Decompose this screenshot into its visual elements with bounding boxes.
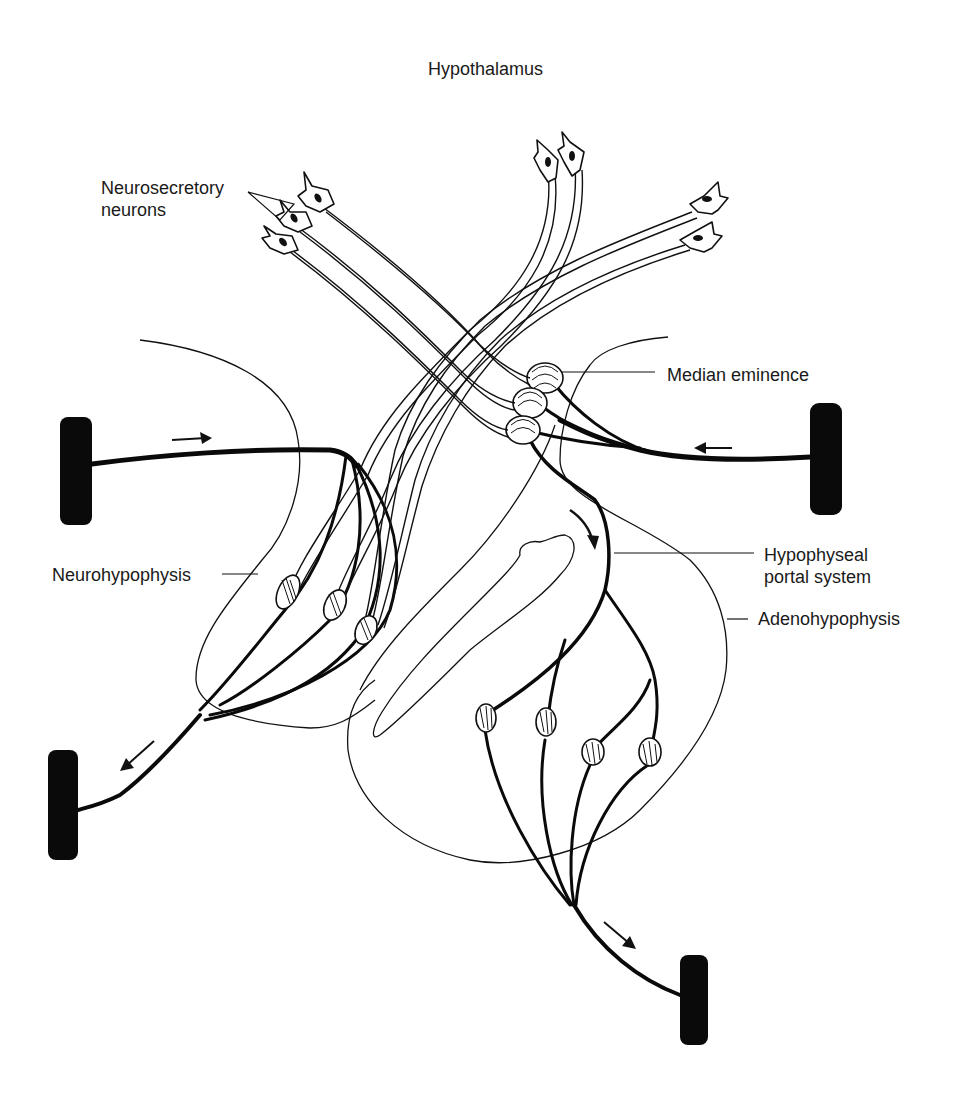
label-neurons: neurons xyxy=(101,199,166,221)
neurohypophyseal-vein xyxy=(78,715,200,810)
vessel-bar-left-lower xyxy=(48,750,78,860)
superior-hypophyseal-artery xyxy=(525,385,810,459)
neuron-cell-bodies xyxy=(262,132,728,254)
neuron-soma xyxy=(690,182,728,214)
label-neurohypophysis: Neurohypophysis xyxy=(52,564,191,586)
flow-arrow-left xyxy=(694,442,732,454)
neuron-soma xyxy=(680,222,722,252)
neuron-soma xyxy=(534,140,558,182)
neurohypophysis-outline xyxy=(140,340,375,728)
adenohypophysis-plexus xyxy=(476,704,661,766)
capillary-knot xyxy=(506,416,540,444)
flow-arrow-down-right xyxy=(604,922,636,949)
label-median-eminence: Median eminence xyxy=(667,364,809,386)
neurosecretory-axons xyxy=(285,165,697,628)
capillary-knot xyxy=(639,738,661,766)
vessel-bar-left-upper xyxy=(60,417,92,525)
label-adenohypophysis: Adenohypophysis xyxy=(758,608,900,630)
flow-arrow-right xyxy=(172,432,212,444)
neuron-soma xyxy=(558,132,584,176)
label-portal-system: portal system xyxy=(764,566,871,588)
capillary-knot xyxy=(582,739,604,765)
hypophyseal-portal-vessels xyxy=(485,440,680,995)
capillary-knot xyxy=(536,708,556,736)
axon-terminals xyxy=(271,571,381,647)
neuron-soma xyxy=(298,172,334,212)
capillary-knot xyxy=(513,388,547,418)
flow-arrow-down-left xyxy=(120,741,154,771)
vessel-bar-right-lower xyxy=(680,955,708,1045)
label-neurosecretory: Neurosecretory xyxy=(101,177,224,199)
vessel-bar-right-upper xyxy=(810,403,842,515)
title-hypothalamus: Hypothalamus xyxy=(428,58,543,80)
infundibular-stalk-outline xyxy=(360,425,555,690)
label-hypophyseal: Hypophyseal xyxy=(764,544,868,566)
pars-intermedia-cleft xyxy=(373,535,574,737)
capillary-knot xyxy=(476,704,496,732)
